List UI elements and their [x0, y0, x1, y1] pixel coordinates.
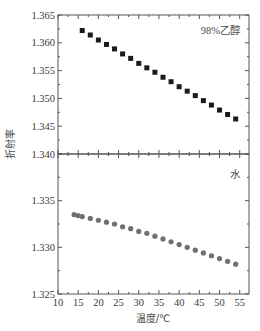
- data-point-water: [185, 245, 190, 250]
- data-point-water: [112, 221, 117, 226]
- y-tick-label: 1.360: [31, 37, 55, 48]
- data-point-ethanol: [112, 46, 117, 51]
- y-tick-label: 1.330: [31, 242, 55, 253]
- x-tick-label: 40: [174, 297, 185, 308]
- data-point-ethanol: [225, 112, 230, 117]
- x-tick-label: 30: [134, 297, 145, 308]
- y-tick-label: 1.355: [31, 65, 55, 76]
- data-point-ethanol: [88, 33, 93, 38]
- data-point-water: [193, 248, 198, 253]
- data-point-water: [152, 234, 157, 239]
- data-point-water: [144, 231, 149, 236]
- x-tick-label: 55: [234, 297, 245, 308]
- data-point-ethanol: [177, 84, 182, 89]
- data-point-ethanol: [128, 56, 133, 61]
- x-tick-label: 50: [214, 297, 225, 308]
- data-point-water: [120, 224, 125, 229]
- data-point-water: [233, 262, 238, 267]
- refractive-index-chart: 1.3401.3451.3501.3551.3601.3651.3251.330…: [0, 0, 260, 331]
- y-tick-label: 1.325: [31, 289, 55, 300]
- y-tick-label: 1.365: [31, 10, 55, 21]
- data-point-ethanol: [201, 98, 206, 103]
- data-point-water: [177, 242, 182, 247]
- x-tick-label: 25: [113, 297, 124, 308]
- data-point-ethanol: [209, 103, 214, 108]
- x-tick-label: 35: [154, 297, 165, 308]
- data-point-water: [160, 236, 165, 241]
- x-axis-title: 温度/℃: [136, 312, 171, 324]
- annotation-water: 水: [230, 169, 241, 180]
- y-tick-label: 1.350: [31, 93, 55, 104]
- data-point-ethanol: [144, 65, 149, 70]
- data-point-ethanol: [96, 38, 101, 43]
- x-tick-label: 15: [73, 297, 84, 308]
- data-point-water: [225, 259, 230, 264]
- tick-labels: 1.3401.3451.3501.3551.3601.3651.3251.330…: [31, 10, 245, 309]
- data-point-ethanol: [185, 89, 190, 94]
- data-point-ethanol: [217, 108, 222, 113]
- data-point-water: [96, 218, 101, 223]
- data-point-water: [80, 214, 85, 219]
- data-point-water: [217, 256, 222, 261]
- data-point-ethanol: [80, 28, 85, 33]
- data-points: [72, 28, 239, 267]
- data-point-ethanol: [233, 116, 238, 121]
- data-point-water: [88, 216, 93, 221]
- data-point-water: [209, 253, 214, 258]
- data-point-water: [128, 226, 133, 231]
- data-point-ethanol: [160, 75, 165, 80]
- x-tick-label: 10: [53, 297, 64, 308]
- data-point-water: [168, 239, 173, 244]
- y-tick-label: 1.345: [31, 121, 55, 132]
- data-point-ethanol: [136, 61, 141, 66]
- y-tick-label: 1.340: [31, 149, 55, 160]
- data-point-ethanol: [193, 93, 198, 98]
- data-point-ethanol: [152, 70, 157, 75]
- annotation-ethanol: 98%乙醇: [201, 24, 241, 36]
- data-point-water: [104, 220, 109, 225]
- x-tick-label: 45: [194, 297, 205, 308]
- y-tick-label: 1.335: [31, 195, 55, 206]
- data-point-ethanol: [104, 42, 109, 47]
- x-tick-label: 20: [93, 297, 104, 308]
- data-point-water: [201, 250, 206, 255]
- y-axis-title: 折射率: [4, 129, 16, 159]
- data-point-water: [136, 229, 141, 234]
- panel-frame-bottom: [58, 154, 249, 294]
- plot-frame: [58, 15, 249, 294]
- data-point-ethanol: [120, 51, 125, 56]
- data-point-ethanol: [169, 79, 174, 84]
